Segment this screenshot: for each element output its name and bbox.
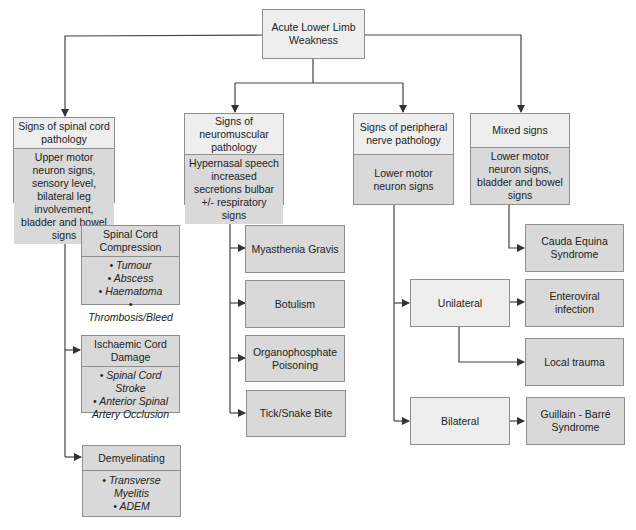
cause-item: • Tumour bbox=[110, 259, 152, 272]
cause-item: • Transverse Myelitis bbox=[87, 474, 176, 500]
category-neuromuscular: Signs of neuromuscular pathology Hyperna… bbox=[184, 113, 284, 205]
cause-item: • Abscess bbox=[108, 272, 154, 285]
outcome-label: Enteroviral infection bbox=[526, 280, 623, 326]
category-mixed: Mixed signs Lower motor neuron signs, bl… bbox=[470, 113, 570, 205]
category-title: Signs of neuromuscular pathology bbox=[185, 114, 283, 154]
cause-item: • ADEM bbox=[113, 500, 150, 513]
tick-snake-bite: Tick/Snake Bite bbox=[246, 390, 346, 437]
category-peripheral-nerve: Signs of peripheral nerve pathology Lowe… bbox=[353, 113, 454, 205]
organophosphate-poisoning: Organophosphate Poisoning bbox=[245, 335, 345, 382]
subtype-causes: • Spinal Cord Stroke • Anterior Spinal A… bbox=[82, 366, 179, 423]
category-title: Mixed signs bbox=[471, 114, 569, 147]
outcome-label: Tick/Snake Bite bbox=[247, 391, 345, 436]
unilateral-node: Unilateral bbox=[410, 279, 510, 327]
root-node: Acute Lower Limb Weakness bbox=[262, 9, 365, 59]
category-signs: Hypernasal speech increased secretions b… bbox=[185, 154, 283, 224]
local-trauma: Local trauma bbox=[525, 338, 624, 386]
botulism: Botulism bbox=[245, 280, 345, 328]
myasthenia-gravis: Myasthenia Gravis bbox=[245, 225, 345, 273]
cauda-equina-syndrome: Cauda Equina Syndrome bbox=[525, 224, 624, 272]
spinal-cord-compression: Spinal Cord Compression • Tumour • Absce… bbox=[81, 225, 180, 305]
enteroviral-infection: Enteroviral infection bbox=[525, 279, 624, 327]
category-title: Signs of spinal cord pathology bbox=[14, 118, 114, 148]
subtype-causes: • Transverse Myelitis • ADEM bbox=[83, 470, 180, 516]
outcome-label: Guillain - Barré Syndrome bbox=[527, 398, 624, 444]
guillain-barre-syndrome: Guillain - Barré Syndrome bbox=[526, 397, 625, 445]
bilateral-node: Bilateral bbox=[410, 397, 510, 445]
category-signs: Lower motor neuron signs, bladder and bo… bbox=[471, 147, 569, 204]
root-label: Acute Lower Limb Weakness bbox=[263, 10, 364, 58]
branch-label: Bilateral bbox=[411, 398, 509, 444]
outcome-label: Cauda Equina Syndrome bbox=[526, 225, 623, 271]
cause-item: • Haematoma bbox=[99, 285, 163, 298]
cause-item: • Thrombosis/Bleed bbox=[86, 298, 175, 324]
outcome-label: Myasthenia Gravis bbox=[246, 226, 344, 272]
subtype-title: Spinal Cord Compression bbox=[82, 226, 179, 256]
demyelinating: Demyelinating • Transverse Myelitis • AD… bbox=[82, 445, 181, 517]
subtype-title: Demyelinating bbox=[83, 446, 180, 470]
category-spinal-cord: Signs of spinal cord pathology Upper mot… bbox=[13, 117, 115, 203]
subtype-causes: • Tumour • Abscess • Haematoma • Thrombo… bbox=[82, 256, 179, 326]
cause-item: • Anterior Spinal Artery Occlusion bbox=[86, 395, 175, 421]
outcome-label: Botulism bbox=[246, 281, 344, 327]
cause-item: • Spinal Cord Stroke bbox=[86, 369, 175, 395]
category-title: Signs of peripheral nerve pathology bbox=[354, 114, 453, 154]
outcome-label: Local trauma bbox=[526, 339, 623, 385]
ischaemic-cord-damage: Ischaemic Cord Damage • Spinal Cord Stro… bbox=[81, 335, 180, 413]
branch-label: Unilateral bbox=[411, 280, 509, 326]
category-signs: Lower motor neuron signs bbox=[354, 154, 453, 204]
subtype-title: Ischaemic Cord Damage bbox=[82, 336, 179, 366]
outcome-label: Organophosphate Poisoning bbox=[246, 336, 344, 381]
